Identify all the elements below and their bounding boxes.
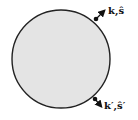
outgoing-arrow-icon (93, 97, 100, 105)
incoming-label: k,ŝ (108, 5, 124, 16)
outgoing-label: k′,ŝ′ (104, 100, 125, 111)
incoming-arrow-icon (94, 12, 103, 21)
scatterer-circle (12, 10, 110, 108)
